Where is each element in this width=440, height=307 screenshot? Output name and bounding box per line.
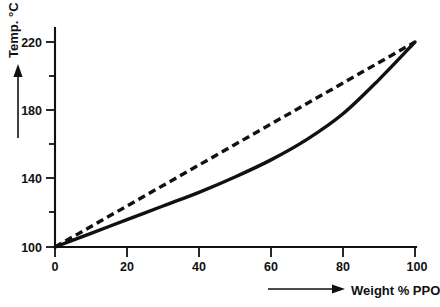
x-axis-tick-label-0: 0 xyxy=(52,260,59,274)
x-axis-tick-label-20: 20 xyxy=(120,260,134,274)
y-axis-tick-label-180: 180 xyxy=(21,104,42,118)
y-axis-tick-label-140: 140 xyxy=(21,172,42,186)
x-axis-title: Weight % PPO xyxy=(351,283,440,298)
y-axis-tick-label-220: 220 xyxy=(21,36,42,50)
x-axis-group: 0 20 40 60 80 100 Weight % PPO xyxy=(52,247,440,298)
series-linear-additivity-line xyxy=(55,42,415,247)
x-axis-tick-label-60: 60 xyxy=(264,260,278,274)
y-axis-tick-label-100: 100 xyxy=(21,241,42,255)
y-axis-group: 220 180 140 100 Temp. °C xyxy=(6,2,55,255)
x-axis-tick-label-100: 100 xyxy=(407,260,428,274)
y-axis-title: Temp. °C xyxy=(6,2,21,58)
x-axis-tick-label-80: 80 xyxy=(336,260,350,274)
temperature-vs-weight-percent-chart: 220 180 140 100 Temp. °C 0 20 40 60 80 1… xyxy=(0,0,440,307)
x-axis-direction-arrow xyxy=(268,284,345,293)
plot-series-group xyxy=(55,42,415,247)
y-axis-direction-arrow xyxy=(13,64,22,138)
x-axis-tick-label-40: 40 xyxy=(192,260,206,274)
